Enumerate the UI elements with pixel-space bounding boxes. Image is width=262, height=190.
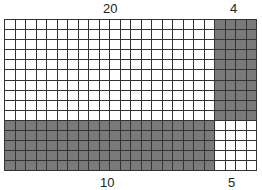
grid-cell-top-left: [152, 91, 163, 101]
grid-cell-top-left: [163, 111, 174, 121]
grid-cell-top-left: [89, 60, 100, 70]
grid-cell-bottom-left: [194, 141, 205, 151]
grid-cell-top-left: [205, 20, 216, 30]
grid-cell-top-left: [152, 70, 163, 80]
grid-cell-top-left: [184, 20, 195, 30]
grid-cell-top-left: [47, 101, 58, 111]
grid-cell-top-left: [26, 81, 37, 91]
grid-cell-top-left: [100, 91, 111, 101]
grid-cell-top-left: [173, 91, 184, 101]
grid-cell-top-left: [194, 20, 205, 30]
grid-cell-top-left: [5, 60, 16, 70]
grid-cell-top-left: [58, 101, 69, 111]
grid-cell-top-left: [142, 91, 153, 101]
grid-cell-bottom-left: [79, 141, 90, 151]
grid-cell-top-left: [26, 20, 37, 30]
grid-cell-bottom-right: [226, 131, 237, 141]
grid-cell-top-left: [26, 111, 37, 121]
grid-cell-bottom-left: [184, 161, 195, 171]
grid-cell-bottom-left: [173, 131, 184, 141]
grid-cell-top-left: [205, 30, 216, 40]
grid-cell-bottom-left: [89, 131, 100, 141]
grid-cell-top-left: [5, 70, 16, 80]
grid-cell-top-left: [110, 60, 121, 70]
grid-cell-top-left: [58, 40, 69, 50]
grid-cell-top-left: [79, 20, 90, 30]
grid-cell-bottom-left: [79, 131, 90, 141]
grid-cell-bottom-left: [205, 151, 216, 161]
grid-cell-bottom-left: [173, 161, 184, 171]
grid-cell-top-left: [68, 40, 79, 50]
grid-cell-top-left: [37, 70, 48, 80]
top-right-label: 4: [230, 2, 237, 15]
grid-cell-top-left: [173, 60, 184, 70]
grid-cell-top-left: [89, 30, 100, 40]
bottom-right-label: 5: [228, 176, 235, 189]
grid-cell-top-left: [205, 111, 216, 121]
grid-cell-top-left: [173, 30, 184, 40]
grid-cell-bottom-left: [26, 151, 37, 161]
grid-cell-bottom-right: [236, 131, 247, 141]
grid-cell-bottom-left: [89, 141, 100, 151]
grid-cell-top-left: [205, 81, 216, 91]
grid-cell-top-left: [89, 81, 100, 91]
grid-cell-top-left: [16, 20, 27, 30]
grid-cell-top-left: [58, 70, 69, 80]
grid-cell-bottom-left: [131, 161, 142, 171]
grid-cell-top-left: [173, 70, 184, 80]
top-left-label: 20: [103, 2, 117, 15]
grid-cell-top-left: [152, 40, 163, 50]
grid-cell-bottom-left: [152, 121, 163, 131]
grid-cell-top-left: [37, 111, 48, 121]
grid-cell-top-left: [37, 101, 48, 111]
grid-cell-top-left: [47, 91, 58, 101]
grid-cell-bottom-left: [5, 141, 16, 151]
grid-cell-top-left: [16, 60, 27, 70]
grid-cell-top-left: [131, 101, 142, 111]
grid-cell-bottom-left: [5, 131, 16, 141]
grid-cell-top-left: [58, 111, 69, 121]
grid-cell-bottom-left: [163, 161, 174, 171]
grid-cell-top-right: [215, 20, 226, 30]
grid-cell-top-right: [226, 60, 237, 70]
grid-cell-top-left: [110, 111, 121, 121]
grid-cell-top-left: [5, 101, 16, 111]
grid-cell-bottom-left: [5, 151, 16, 161]
grid-cell-top-right: [236, 101, 247, 111]
grid-cell-bottom-right: [215, 161, 226, 171]
grid-cell-bottom-left: [89, 151, 100, 161]
grid-cell-top-left: [47, 40, 58, 50]
area-grid: [4, 19, 257, 171]
grid-cell-top-right: [236, 111, 247, 121]
grid-cell-bottom-right: [215, 141, 226, 151]
grid-cell-top-left: [163, 101, 174, 111]
grid-cell-top-left: [16, 40, 27, 50]
grid-cell-top-left: [205, 91, 216, 101]
grid-cell-top-left: [194, 60, 205, 70]
grid-cell-bottom-left: [152, 141, 163, 151]
grid-cell-bottom-right: [226, 161, 237, 171]
grid-cell-top-left: [205, 60, 216, 70]
grid-cell-bottom-left: [100, 121, 111, 131]
grid-cell-bottom-left: [142, 161, 153, 171]
grid-cell-top-right: [226, 70, 237, 80]
grid-cell-top-right: [226, 40, 237, 50]
grid-cell-top-left: [184, 91, 195, 101]
grid-cell-top-right: [236, 40, 247, 50]
grid-cell-bottom-left: [194, 121, 205, 131]
grid-cell-bottom-left: [68, 151, 79, 161]
grid-cell-top-left: [121, 70, 132, 80]
grid-cell-top-left: [131, 20, 142, 30]
grid-cell-top-left: [205, 101, 216, 111]
bottom-left-label: 10: [100, 176, 114, 189]
grid-cell-bottom-left: [110, 141, 121, 151]
grid-cell-bottom-right: [215, 151, 226, 161]
grid-cell-top-left: [152, 20, 163, 30]
grid-cell-top-left: [5, 40, 16, 50]
grid-cell-top-left: [121, 60, 132, 70]
grid-cell-top-left: [47, 60, 58, 70]
grid-cell-bottom-left: [121, 121, 132, 131]
grid-cell-bottom-left: [89, 121, 100, 131]
grid-cell-bottom-left: [173, 151, 184, 161]
grid-cell-bottom-left: [152, 151, 163, 161]
